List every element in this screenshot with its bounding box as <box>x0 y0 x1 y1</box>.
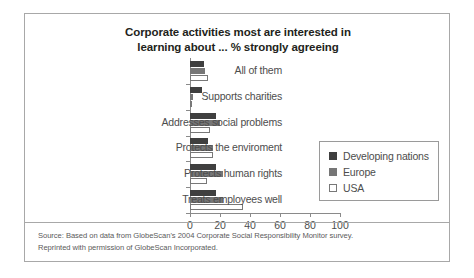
white-square-swatch-icon <box>329 184 337 192</box>
y-axis-tick <box>186 84 190 85</box>
legend-label: USA <box>343 182 364 194</box>
category-label: Protects human rights <box>122 167 282 179</box>
legend-item-europe: Europe <box>329 164 438 180</box>
legend-label: Developing nations <box>343 150 429 162</box>
chart-title: Corporate activities most are interested… <box>25 25 451 55</box>
x-axis-tick <box>190 213 191 217</box>
dark-square-swatch-icon <box>329 152 337 160</box>
legend-label: Europe <box>343 166 376 178</box>
x-axis-tick <box>280 213 281 217</box>
y-axis-tick <box>186 187 190 188</box>
category-label: Treats employees well <box>122 193 282 205</box>
x-axis-line <box>190 213 341 214</box>
category-label: All of them <box>122 64 282 76</box>
x-axis-tick <box>340 213 341 217</box>
x-axis-tick <box>310 213 311 217</box>
chart-legend: Developing nations Europe USA <box>319 141 439 201</box>
x-axis-tick <box>220 213 221 217</box>
gray-square-swatch-icon <box>329 168 337 176</box>
footer-divider <box>25 222 449 223</box>
chart-figure: Corporate activities most are interested… <box>24 13 450 262</box>
source-note: Source: Based on data from GlobeScan's 2… <box>38 230 438 253</box>
category-label: Addresses social problems <box>122 116 282 128</box>
legend-item-developing-nations: Developing nations <box>329 148 438 164</box>
y-axis-tick <box>186 136 190 137</box>
category-label: Supports charities <box>122 90 282 102</box>
chart-title-line-2: learning about ... % strongly agreeing <box>25 40 451 55</box>
legend-item-usa: USA <box>329 180 438 196</box>
chart-title-line-1: Corporate activities most are interested… <box>25 25 451 40</box>
source-line-1: Source: Based on data from GlobeScan's 2… <box>38 230 438 242</box>
x-axis-tick <box>250 213 251 217</box>
category-label: Protects the enviroment <box>122 141 282 153</box>
plot-area: 020406080100 All of themSupports chariti… <box>25 58 451 223</box>
y-axis-tick <box>186 110 190 111</box>
source-line-2: Reprinted with permission of GlobeScan I… <box>38 242 438 254</box>
y-axis-tick <box>186 161 190 162</box>
y-axis-tick <box>186 213 190 214</box>
